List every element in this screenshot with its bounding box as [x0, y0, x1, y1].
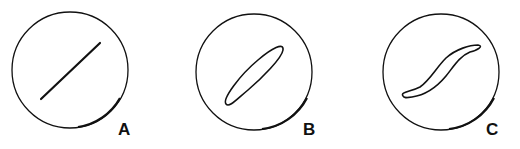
- panel-a: A: [12, 12, 130, 139]
- circle-b: [196, 14, 312, 130]
- diagram: A B C: [0, 0, 520, 149]
- circle-c: [383, 14, 499, 130]
- circle-b-shadow: [262, 98, 307, 129]
- label-b: B: [303, 120, 315, 139]
- panel-c: C: [383, 14, 499, 139]
- trace-loop: [402, 45, 480, 98]
- circle-a-shadow: [78, 98, 120, 127]
- label-c: C: [486, 120, 498, 139]
- trace-line: [41, 43, 100, 99]
- trace-ellipse: [225, 46, 283, 105]
- panel-b: B: [196, 14, 315, 139]
- label-a: A: [118, 120, 130, 139]
